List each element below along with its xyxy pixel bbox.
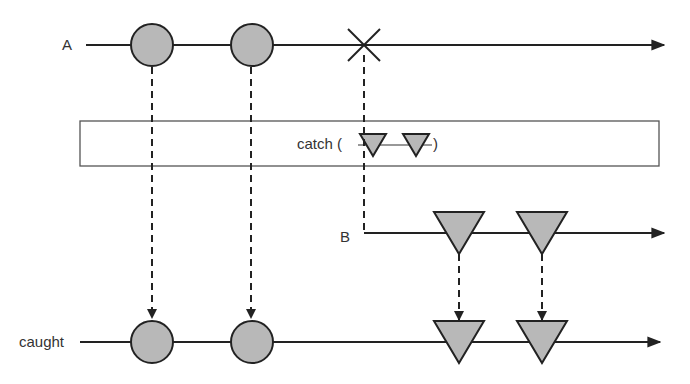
stream-label-b: B <box>340 229 350 244</box>
dashed-connectors <box>152 55 542 320</box>
circle-marble-icon <box>131 321 173 363</box>
operator-box <box>80 121 659 166</box>
operator-label-suffix: ) <box>433 136 438 151</box>
stream-caught <box>80 321 660 363</box>
circle-marble-icon <box>231 321 273 363</box>
circle-marble-icon <box>231 24 273 66</box>
stream-a <box>86 24 664 66</box>
circle-marble-icon <box>131 24 173 66</box>
streams <box>80 24 664 363</box>
operator-label-prefix: catch ( <box>297 136 342 151</box>
stream-label-a: A <box>62 37 72 52</box>
stream-label-caught: caught <box>19 334 64 349</box>
marble-diagram <box>0 0 690 384</box>
stream-b <box>364 212 664 254</box>
